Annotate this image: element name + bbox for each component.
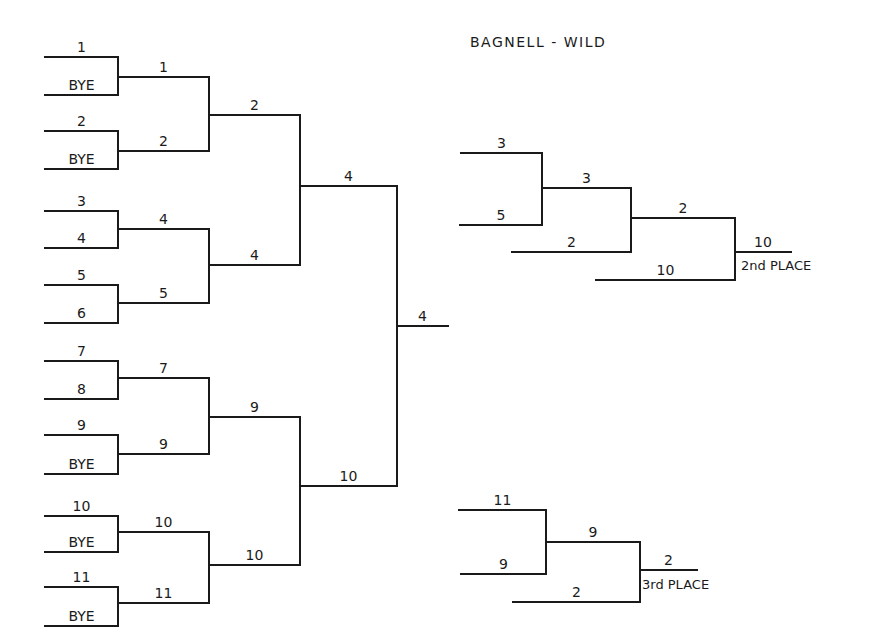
bracket-slot-label: 2 xyxy=(250,97,259,113)
bracket-slot-label: 5 xyxy=(159,285,168,301)
bracket-slot-label: BYE xyxy=(68,456,94,472)
bracket-slot-label: 7 xyxy=(159,360,168,376)
bracket-slot-label: 11 xyxy=(494,492,512,508)
bracket-slot-label: 11 xyxy=(73,569,91,585)
bracket-slot-label: 9 xyxy=(159,436,168,452)
bracket-slot-label: 4 xyxy=(77,230,86,246)
bracket-title: BAGNELL - WILD xyxy=(470,34,606,50)
bracket-slot-label: 10 xyxy=(340,468,358,484)
bracket-slot-label: 10 xyxy=(754,234,772,250)
bracket-slot-label: BYE xyxy=(68,77,94,93)
bracket-slot-label: 5 xyxy=(77,267,86,283)
second-place-bracket: 2nd PLACE 353221010 xyxy=(460,135,811,280)
bracket-slot-label: BYE xyxy=(68,151,94,167)
bracket-slot-label: 4 xyxy=(159,211,168,227)
bracket-slot-label: 9 xyxy=(589,524,598,540)
bracket-slot-label: 9 xyxy=(250,399,259,415)
bracket-slot-label: 2 xyxy=(572,584,581,600)
bracket-slot-label: 2 xyxy=(77,113,86,129)
bracket-slot-label: 1 xyxy=(77,39,86,55)
bracket-slot-label: 10 xyxy=(155,514,173,530)
bracket-slot-label: 10 xyxy=(657,262,675,278)
bracket-slot-label: 3 xyxy=(497,135,506,151)
bracket-slot-label: 6 xyxy=(77,305,86,321)
bracket-slot-label: 5 xyxy=(497,207,506,223)
champion-label: 4 xyxy=(418,308,427,324)
bracket-slot-label: 3 xyxy=(77,193,86,209)
bracket-slot-label: 4 xyxy=(250,247,259,263)
bracket-slot-label: 10 xyxy=(246,547,264,563)
third-place-label: 3rd PLACE xyxy=(642,577,709,592)
second-place-label: 2nd PLACE xyxy=(741,258,811,273)
bracket-slot-label: BYE xyxy=(68,608,94,624)
bracket-slot-label: 9 xyxy=(77,417,86,433)
bracket-diagram: BAGNELL - WILD 1BYE2BYE3456789BYE10BYE11… xyxy=(0,0,872,638)
bracket-slot-label: 8 xyxy=(77,381,86,397)
bracket-slot-label: 1 xyxy=(159,59,168,75)
bracket-slot-label: 7 xyxy=(77,343,86,359)
bracket-slot-label: 10 xyxy=(73,498,91,514)
bracket-slot-label: 9 xyxy=(499,556,508,572)
bracket-slot-label: 3 xyxy=(582,170,591,186)
bracket-slot-label: 11 xyxy=(155,585,173,601)
bracket-slot-label: 2 xyxy=(664,552,673,568)
bracket-slot-label: 2 xyxy=(159,133,168,149)
main-bracket: 1BYE2BYE3456789BYE10BYE11BYE124579101124… xyxy=(45,39,448,626)
bracket-slot-label: 2 xyxy=(679,200,688,216)
third-place-bracket: 3rd PLACE 119922 xyxy=(459,492,709,602)
bracket-slot-label: 2 xyxy=(567,234,576,250)
bracket-slot-label: 4 xyxy=(344,168,353,184)
bracket-slot-label: BYE xyxy=(68,534,94,550)
